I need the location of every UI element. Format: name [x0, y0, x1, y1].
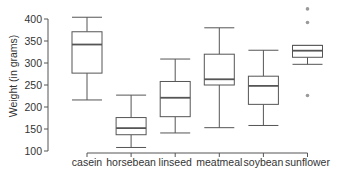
box-horsebean — [116, 95, 146, 147]
y-axis-title: Weight (in grams) — [7, 35, 19, 118]
x-tick-label: linseed — [159, 156, 192, 168]
iqr-box — [204, 54, 234, 85]
box-series — [72, 7, 323, 147]
y-tick-label: 400 — [24, 13, 42, 25]
y-tick-label: 300 — [24, 57, 42, 69]
y-tick-label: 150 — [24, 123, 42, 135]
box-linseed — [160, 59, 190, 133]
x-axis: caseinhorsebeanlinseedmeatmealsoybeansun… — [72, 153, 331, 168]
y-tick-label: 100 — [24, 145, 42, 157]
x-tick-label: meatmeal — [196, 156, 242, 168]
box-sunflower — [293, 7, 323, 97]
box-soybean — [248, 50, 278, 125]
y-tick-label: 250 — [24, 79, 42, 91]
iqr-box — [116, 118, 146, 135]
iqr-box — [72, 32, 102, 73]
box-casein — [72, 17, 102, 100]
x-tick-label: casein — [72, 156, 103, 168]
x-tick-label: horsebean — [106, 156, 156, 168]
outlier-point — [306, 7, 310, 11]
chart-canvas: 100150200250300350400 caseinhorsebeanlin… — [0, 0, 341, 176]
y-tick-label: 350 — [24, 35, 42, 47]
outlier-point — [306, 94, 310, 98]
x-tick-label: soybean — [244, 156, 284, 168]
iqr-box — [160, 81, 190, 116]
box-meatmeal — [204, 28, 234, 128]
outlier-point — [306, 21, 310, 25]
y-tick-label: 200 — [24, 101, 42, 113]
boxplot-chart: 100150200250300350400 caseinhorsebeanlin… — [0, 0, 341, 176]
x-tick-label: sunflower — [285, 156, 330, 168]
y-axis: 100150200250300350400 — [24, 13, 48, 157]
iqr-box — [248, 76, 278, 104]
